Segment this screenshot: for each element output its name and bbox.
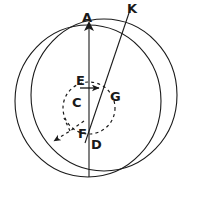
point-label-e: E (76, 74, 85, 87)
point-label-k: K (127, 2, 137, 15)
geometry-figure: A K E C G F D (0, 0, 198, 205)
point-label-f: F (78, 127, 87, 140)
large-circle-right (31, 19, 177, 171)
point-label-g: G (110, 90, 121, 103)
geometry-canvas (0, 0, 198, 205)
point-label-c: C (72, 96, 82, 109)
point-label-d: D (91, 138, 102, 151)
large-circle-left (15, 25, 161, 177)
point-label-a: A (82, 11, 92, 24)
